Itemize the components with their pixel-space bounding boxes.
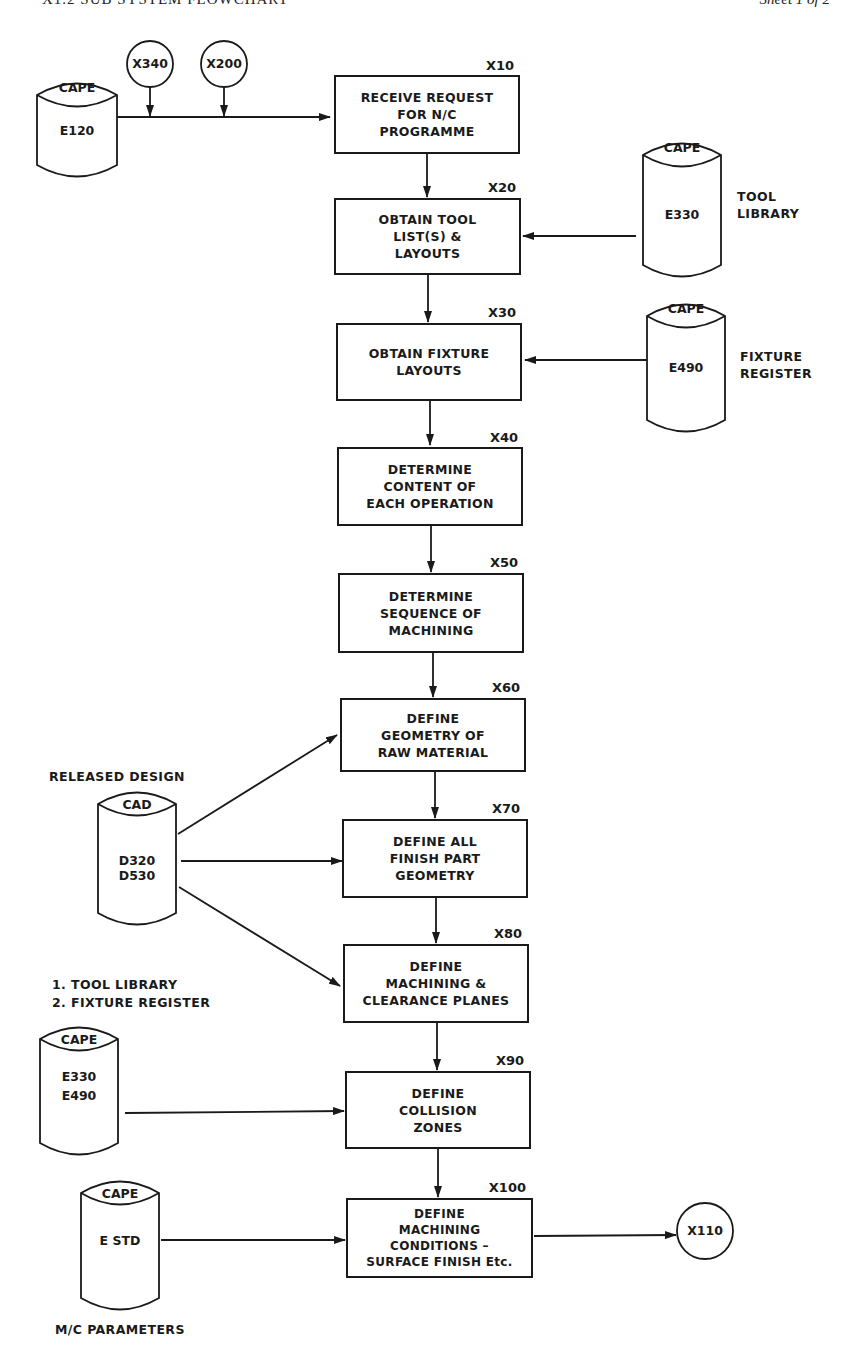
datastore-e330-e490-system: CAPE bbox=[40, 1032, 118, 1047]
datastore-e490-caption: FIXTURE REGISTER bbox=[740, 348, 812, 382]
process-x80: DEFINE MACHINING & CLEARANCE PLANES bbox=[343, 944, 529, 1023]
datastore-cad-system: CAD bbox=[98, 797, 176, 812]
datastore-e330-system: CAPE bbox=[643, 140, 721, 155]
process-x100: DEFINE MACHINING CONDITIONS – SURFACE FI… bbox=[346, 1198, 533, 1278]
process-id-x10: X10 bbox=[440, 58, 514, 73]
datastore-estd-system: CAPE bbox=[81, 1186, 159, 1201]
datastore-cad-code: D320 D530 bbox=[98, 853, 176, 883]
process-id-x80: X80 bbox=[444, 926, 522, 941]
process-x40: DETERMINE CONTENT OF EACH OPERATION bbox=[337, 447, 523, 526]
datastore-e330-e490-caption: 1. TOOL LIBRARY 2. FIXTURE REGISTER bbox=[52, 976, 210, 1012]
process-id-x30-box: OBTAIN FIXTURE LAYOUTS bbox=[336, 323, 522, 401]
process-id-x50: X50 bbox=[440, 555, 518, 570]
datastore-e330-caption: TOOL LIBRARY bbox=[737, 188, 799, 222]
process-x60: DEFINE GEOMETRY OF RAW MATERIAL bbox=[340, 698, 526, 772]
datastore-e330-code: E330 bbox=[643, 206, 721, 223]
process-id-x70: X70 bbox=[442, 801, 520, 816]
process-x50: DETERMINE SEQUENCE OF MACHINING bbox=[338, 573, 524, 653]
datastore-e490-code: E490 bbox=[647, 359, 725, 376]
process-id-x100: X100 bbox=[446, 1180, 526, 1195]
process-id-x20: X20 bbox=[440, 180, 516, 195]
connector-x200: X200 bbox=[201, 56, 247, 71]
datastore-e120-code: E120 bbox=[37, 122, 117, 139]
process-x70: DEFINE ALL FINISH PART GEOMETRY bbox=[342, 819, 528, 898]
connector-x110: X110 bbox=[677, 1223, 733, 1238]
datastore-e120-system: CAPE bbox=[37, 80, 117, 95]
process-x90: DEFINE COLLISION ZONES bbox=[345, 1071, 531, 1149]
process-id-x90: X90 bbox=[446, 1053, 524, 1068]
process-x20: OBTAIN TOOL LIST(S) & LAYOUTS bbox=[334, 198, 521, 275]
process-id-x30: X30 bbox=[440, 305, 516, 320]
datastore-estd-code: E STD bbox=[81, 1232, 159, 1249]
datastore-estd-caption: M/C PARAMETERS bbox=[55, 1321, 185, 1338]
process-id-x60: X60 bbox=[442, 680, 520, 695]
datastore-e330-e490-code: E330 E490 bbox=[40, 1067, 118, 1105]
process-x10: RECEIVE REQUEST FOR N/C PROGRAMME bbox=[334, 75, 520, 154]
process-id-x40: X40 bbox=[440, 430, 518, 445]
connector-x340: X340 bbox=[127, 56, 173, 71]
datastore-cad-caption: RELEASED DESIGN bbox=[49, 768, 185, 785]
datastore-e490-system: CAPE bbox=[647, 301, 725, 316]
